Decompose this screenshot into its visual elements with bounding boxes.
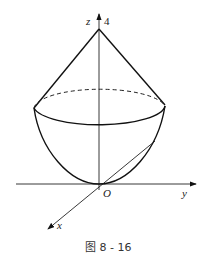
x-axis-label: x (56, 219, 62, 231)
z-value-label: 4 (104, 15, 110, 27)
figure-diagram: z 4 O y x 图 8 - 16 (0, 0, 205, 262)
ellipse-back (34, 89, 165, 108)
ellipse-front (34, 106, 165, 125)
figure-caption: 图 8 - 16 (85, 241, 131, 254)
origin-label: O (103, 187, 111, 199)
cone-left-edge (34, 29, 99, 108)
z-axis-label: z (85, 15, 91, 27)
cone-right-edge (99, 29, 165, 105)
paraboloid-curve (34, 106, 165, 184)
y-axis-label: y (181, 187, 187, 199)
x-axis (48, 141, 155, 229)
